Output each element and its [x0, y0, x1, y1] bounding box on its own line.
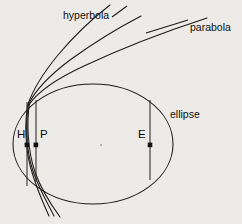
ellipse-label: ellipse — [170, 108, 200, 120]
point-e-marker — [148, 143, 153, 148]
hyperbola-leader-line — [112, 6, 127, 17]
hyperbola-label: hyperbola — [63, 9, 109, 21]
conic-sections-figure: hyperbola parabola ellipse H P E — [0, 0, 242, 224]
ellipse-center-mark — [100, 144, 102, 146]
intermediate-conic-lower — [27, 104, 54, 216]
intermediate-conic-upper — [29, 16, 141, 104]
parabola-label: parabola — [190, 21, 231, 33]
point-e-label: E — [138, 128, 146, 140]
point-p-marker — [34, 143, 39, 148]
parabola-left-branch — [28, 104, 60, 217]
point-h-label: H — [17, 128, 25, 140]
point-p-label: P — [40, 128, 48, 140]
point-h-marker — [25, 143, 30, 148]
